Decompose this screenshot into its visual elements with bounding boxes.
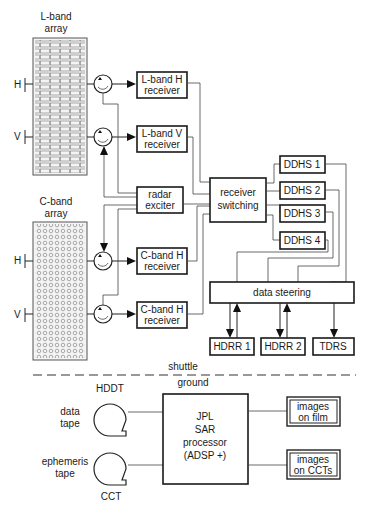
radar-exciter: radar exciter	[137, 187, 183, 213]
svg-text:switching: switching	[217, 200, 258, 211]
hdrr-1: HDRR 1	[213, 341, 251, 352]
svg-text:exciter: exciter	[145, 200, 175, 211]
receiver-c-band-h-2: C-band H receiver	[137, 302, 187, 328]
ephemeris-tape: ephemeris tape CCT	[42, 453, 126, 502]
svg-text:L-band H: L-band H	[141, 74, 182, 85]
svg-text:receiver: receiver	[144, 315, 180, 326]
tdrs: TDRS	[319, 341, 347, 352]
output-images-on-film: images on film	[287, 397, 340, 426]
svg-text:processor: processor	[183, 437, 228, 448]
c-band-array-label-1: C-band	[40, 196, 73, 207]
receiver-l-band-v: L-band V receiver	[137, 126, 187, 152]
l-band-array: L-band array H V	[14, 11, 87, 175]
circulator-icon	[87, 128, 112, 146]
circulator-icon	[87, 305, 112, 323]
svg-text:radar: radar	[148, 189, 172, 200]
circulators	[87, 75, 112, 323]
svg-text:receiver: receiver	[220, 187, 256, 198]
ddhs-1: DDHS 1	[284, 159, 321, 170]
receiver-switching: receiver switching	[210, 178, 266, 222]
cct-label: CCT	[101, 491, 122, 502]
c-band-h-label: H	[14, 255, 21, 266]
data-tape: HDDT data tape	[60, 383, 126, 436]
shuttle-label: shuttle	[168, 361, 198, 372]
exciter-lines	[100, 93, 137, 305]
svg-text:(ADSP +): (ADSP +)	[184, 450, 226, 461]
svg-text:ephemeris: ephemeris	[42, 456, 89, 467]
ddhs-3: DDHS 3	[284, 208, 321, 219]
recorders: HDRR 1 HDRR 2 TDRS	[210, 338, 354, 355]
tape-reel-icon	[94, 453, 126, 485]
svg-text:tape: tape	[60, 418, 80, 429]
svg-text:C-band H: C-band H	[141, 304, 184, 315]
switching-to-ddhs-lines	[266, 164, 280, 240]
svg-text:receiver: receiver	[144, 85, 180, 96]
svg-text:receiver: receiver	[144, 139, 180, 150]
svg-text:receiver: receiver	[144, 261, 180, 272]
shuttle-ground-divider: shuttle ground	[33, 361, 356, 388]
circulator-icon	[87, 252, 112, 270]
svg-text:C-band H: C-band H	[141, 250, 184, 261]
circulator-icon	[87, 75, 112, 93]
svg-text:images: images	[297, 454, 329, 465]
c-band-array-label-2: array	[45, 208, 68, 219]
l-band-v-label: V	[14, 131, 21, 142]
c-band-v-label: V	[14, 309, 21, 320]
data-steering: data steering	[210, 282, 354, 303]
svg-text:on CCTs: on CCTs	[294, 465, 332, 476]
sar-block-diagram: L-band array H V C-band array H V	[0, 0, 366, 513]
jpl-sar-processor: JPL SAR processor (ADSP +)	[163, 394, 248, 484]
hdrr-2: HDRR 2	[264, 341, 302, 352]
svg-text:data steering: data steering	[253, 287, 311, 298]
svg-text:images: images	[297, 401, 329, 412]
svg-text:on film: on film	[298, 412, 327, 423]
steering-recorder-arrows	[226, 303, 338, 338]
output-images-on-ccts: images on CCTs	[287, 450, 340, 479]
ddhs-4: DDHS 4	[284, 235, 321, 246]
ddhs-2: DDHS 2	[284, 185, 321, 196]
svg-text:tape: tape	[55, 468, 75, 479]
svg-text:JPL: JPL	[196, 411, 214, 422]
svg-text:L-band V: L-band V	[142, 128, 183, 139]
ddhs-boxes: DDHS 1 DDHS 2 DDHS 3 DDHS 4	[280, 156, 325, 249]
receiver-to-switching-lines	[183, 83, 210, 314]
hddt-label: HDDT	[96, 383, 124, 394]
l-band-array-label-1: L-band	[40, 11, 71, 22]
circulator-to-receiver-arrows	[112, 80, 136, 318]
l-band-array-label-2: array	[45, 23, 68, 34]
receiver-l-band-h: L-band H receiver	[137, 72, 187, 98]
ground-label: ground	[177, 377, 208, 388]
receiver-c-band-h-1: C-band H receiver	[137, 248, 187, 274]
svg-text:data: data	[60, 406, 80, 417]
svg-text:SAR: SAR	[195, 424, 216, 435]
tape-reel-icon	[94, 404, 126, 436]
c-band-array: C-band array H V	[14, 196, 87, 360]
l-band-h-label: H	[14, 79, 21, 90]
